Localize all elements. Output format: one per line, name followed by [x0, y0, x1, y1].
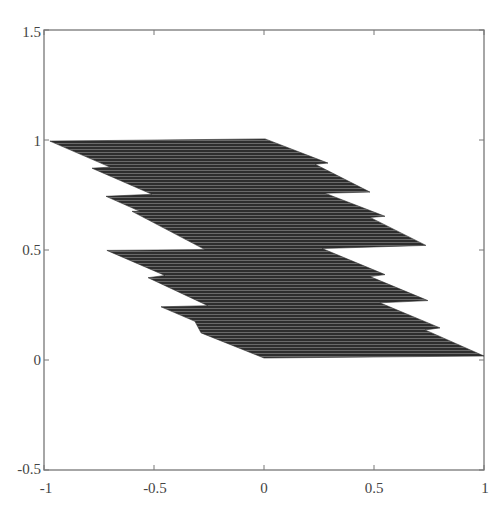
y-tick-label: 0.5 [22, 242, 41, 258]
y-tick-label: -0.5 [17, 461, 41, 477]
y-tick-label: 0 [34, 352, 42, 368]
x-tick-label: 0 [260, 480, 268, 496]
y-axis-tick-labels: -0.5 0 0.5 1 1.5 [17, 24, 41, 477]
x-tick-label: 1 [481, 480, 489, 496]
y-tick-label: 1.5 [22, 24, 41, 40]
y-tick-label: 1 [34, 133, 42, 149]
x-tick-label: -0.5 [143, 480, 167, 496]
x-tick-label: 0.5 [365, 480, 384, 496]
fractal-tile-region [50, 139, 484, 358]
x-tick-label: -1 [40, 480, 53, 496]
x-axis-tick-labels: -1 -0.5 0 0.5 1 [40, 480, 489, 496]
fractal-tile-plot: -1 -0.5 0 0.5 1 -0.5 0 0.5 1 1.5 [0, 0, 498, 509]
